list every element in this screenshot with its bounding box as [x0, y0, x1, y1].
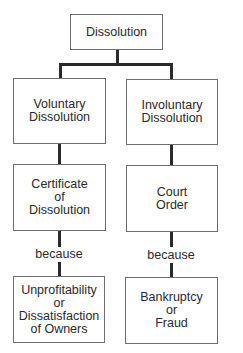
node-involuntary-dissolution: Involuntary Dissolution — [126, 79, 218, 145]
right-because-to-reason-connector — [170, 263, 173, 278]
node-label-line: Dissolution — [29, 204, 90, 217]
root-node-label: Dissolution — [86, 26, 147, 39]
node-label-line: Court — [157, 186, 188, 199]
node-label-line: or — [53, 297, 64, 310]
left-type-to-mechanism-connector — [58, 143, 61, 165]
root-node-dissolution: Dissolution — [70, 14, 163, 50]
node-label-line: Order — [156, 199, 188, 212]
node-unprofitability-or-dissatisfaction: Unprofitability or Dissatisfaction of Ow… — [13, 276, 105, 343]
right-mechanism-to-because-connector — [170, 231, 173, 247]
node-label-line: Dissolution — [141, 112, 202, 125]
node-certificate-of-dissolution: Certificate of Dissolution — [13, 164, 106, 231]
node-label-line: Fraud — [155, 317, 188, 330]
node-label-line: of Owners — [31, 323, 88, 336]
left-because-label: because — [19, 247, 99, 261]
left-because-to-reason-connector — [58, 262, 61, 277]
left-branch-drop-connector — [59, 63, 62, 79]
node-bankruptcy-or-fraud: Bankruptcy or Fraud — [125, 277, 218, 344]
node-voluntary-dissolution: Voluntary Dissolution — [13, 78, 106, 144]
left-mechanism-to-because-connector — [58, 230, 61, 247]
node-label-line: Unprofitability — [21, 284, 97, 297]
node-label-line: Dissatisfaction — [19, 310, 100, 323]
node-court-order: Court Order — [126, 165, 218, 232]
node-label-line: Dissolution — [29, 111, 90, 124]
right-branch-drop-connector — [170, 63, 173, 80]
branch-horizontal-connector — [59, 63, 173, 66]
right-type-to-mechanism-connector — [170, 144, 173, 166]
right-because-label: because — [131, 248, 211, 262]
